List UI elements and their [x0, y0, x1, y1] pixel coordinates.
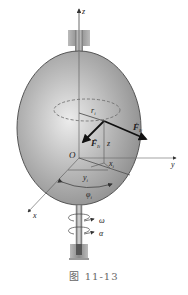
omega-label: ω — [99, 216, 105, 225]
z-axis-label: z — [81, 7, 86, 16]
x-axis-label: x — [32, 211, 37, 220]
bottom-bearing — [69, 244, 89, 260]
origin-label: O — [69, 150, 76, 160]
y-axis-label: y — [170, 160, 175, 169]
alpha-label: α — [99, 229, 104, 238]
figure-caption: 图 11-13 — [0, 268, 188, 283]
rotating-body-diagram: z ri FIit FIin z y O x xi yi φi ω α — [0, 0, 188, 295]
